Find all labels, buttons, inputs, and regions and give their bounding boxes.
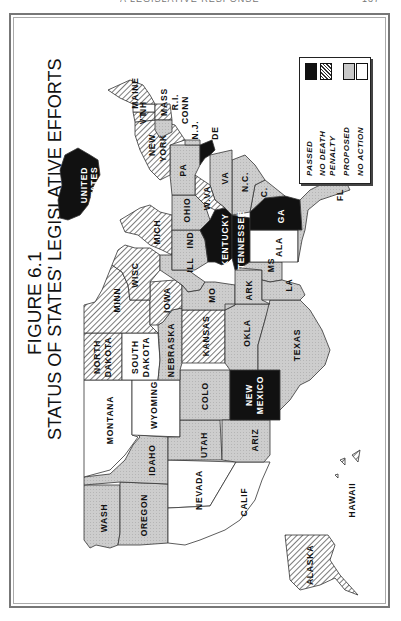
label-idaho: IDAHO (147, 444, 157, 475)
legend-label-penalty: PENALTY (328, 136, 337, 176)
legend-swatch-no-death-penalty (320, 63, 332, 80)
label-south-dakota-1: SOUTH (130, 340, 140, 374)
label-hawaii: HAWAII (347, 482, 357, 517)
label-new-mexico-2: MEXICO (255, 376, 265, 414)
label-tennessee: TENNESSEE (236, 211, 246, 270)
label-colo: COLO (200, 382, 210, 410)
label-nevada: NEVADA (194, 470, 204, 510)
label-kentucky: KENTUCKY (220, 213, 230, 267)
label-nj: N.J. (190, 121, 200, 140)
label-wva: W.VA (202, 186, 212, 210)
label-utah: UTAH (199, 432, 209, 458)
state-nj[interactable] (185, 140, 200, 145)
label-la: LA (284, 279, 294, 292)
legend-label-passed: PASSED (305, 141, 314, 176)
label-ind: IND (185, 231, 195, 248)
label-nc: N.C. (240, 172, 250, 192)
label-oregon: OREGON (139, 494, 149, 537)
label-calif: CALIF (239, 487, 249, 516)
label-mich: MICH (152, 220, 162, 245)
label-texas: TEXAS (292, 329, 302, 361)
label-ms: MS (266, 258, 276, 272)
label-states: STATES (89, 166, 99, 203)
label-iowa: IOWA (162, 287, 172, 313)
state-ariz[interactable] (222, 420, 270, 462)
label-ala: ALA (274, 237, 284, 257)
label-wash: WASH (99, 504, 109, 533)
legend-swatch-no-action (356, 63, 368, 80)
label-new-mexico-1: NEW (244, 384, 254, 406)
label-wyoming: WYOMING (149, 381, 159, 429)
label-okla: OKLA (242, 319, 252, 346)
label-maine: MAINE (130, 77, 140, 108)
label-wisc: WISC (130, 262, 140, 287)
legend-label-proposed: PROPOSED (342, 127, 351, 176)
label-ariz: ARIZ (250, 428, 260, 451)
legend-swatch-passed (305, 63, 317, 80)
label-kansas: KANSAS (201, 316, 211, 357)
label-montana: MONTANA (105, 396, 115, 444)
label-pa: PA (178, 164, 188, 177)
label-conn: CONN (180, 96, 190, 124)
label-new-york-2: YORK (158, 134, 168, 162)
legend: PASSED NO DEATH PENALTY PROPOSED NO ACTI… (299, 57, 371, 184)
label-new-york-1: NEW (147, 134, 157, 156)
label-ga: GA (276, 209, 286, 223)
legend-label-no-death: NO DEATH (318, 131, 327, 176)
label-fl: FL (335, 189, 345, 201)
label-north-dakota-2: DAKOTA (103, 337, 113, 378)
legend-label-no-action: NO ACTION (356, 127, 365, 176)
label-alaska: ALASKA (305, 545, 315, 585)
label-mass: MASS (159, 88, 169, 116)
label-va: VA (220, 172, 230, 185)
label-ill: ILL (185, 257, 195, 272)
label-mo: MO (207, 287, 217, 302)
label-minn: MINN (112, 288, 122, 313)
label-united: UNITED (79, 167, 89, 203)
label-ri: R.I. (170, 94, 180, 110)
state-alaska[interactable] (285, 535, 358, 595)
label-ohio: OHIO (182, 198, 192, 223)
label-de: DE (210, 126, 220, 139)
label-nebraska: NEBRASKA (166, 323, 176, 378)
label-ark: ARK (244, 280, 254, 301)
legend-swatch-proposed (343, 63, 355, 80)
label-north-dakota-1: NORTH (92, 340, 102, 374)
state-hawaii[interactable] (335, 450, 360, 478)
label-south-dakota-2: DAKOTA (141, 337, 151, 378)
label-sc: S.C. (259, 187, 269, 207)
